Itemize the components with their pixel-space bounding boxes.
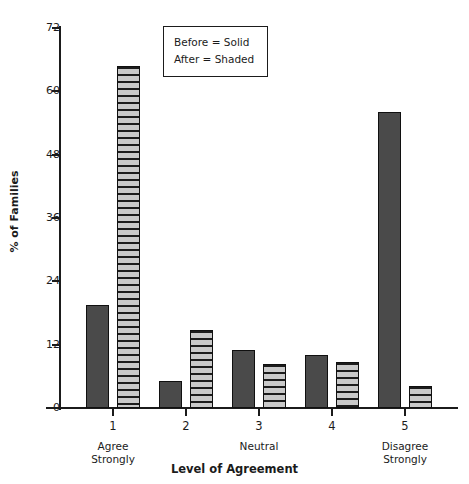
y-axis-tick-label: 60 [34, 85, 60, 96]
y-axis-tick-label: 48 [34, 149, 60, 160]
x-axis-category-caption: Neutral [211, 440, 307, 453]
x-axis-tick [258, 409, 260, 416]
x-axis-tick-label: 3 [239, 419, 279, 433]
chart-legend: Before = Solid After = Shaded [163, 26, 268, 77]
x-axis-title: Level of Agreement [0, 462, 469, 476]
x-axis-tick-label: 5 [385, 419, 425, 433]
y-axis-tick-label: 12 [34, 339, 60, 350]
bar-after-cat-2 [190, 330, 213, 408]
y-axis-tick-label: 36 [34, 212, 60, 223]
bar-after-cat-4 [336, 362, 359, 408]
x-axis-tick-label: 4 [312, 419, 352, 433]
y-axis-tick-label: 24 [34, 275, 60, 286]
bar-before-cat-2 [159, 381, 182, 408]
bar-before-cat-1 [86, 305, 109, 408]
x-axis-tick-label: 1 [93, 419, 133, 433]
y-axis-tick-label-wrap: 12 [0, 339, 60, 351]
bar-before-cat-5 [378, 112, 401, 408]
x-axis-tick [185, 409, 187, 416]
legend-entry-after: After = Shaded [174, 51, 257, 68]
y-axis-tick-label-wrap: 0 [0, 402, 60, 414]
y-axis-tick-label: 72 [34, 22, 60, 33]
bar-before-cat-4 [305, 355, 328, 408]
bar-after-cat-1 [117, 66, 140, 408]
bar-before-cat-3 [232, 350, 255, 408]
x-axis-tick-label: 2 [166, 419, 206, 433]
x-axis-tick [331, 409, 333, 416]
bar-after-cat-5 [409, 386, 432, 408]
x-axis-tick [112, 409, 114, 416]
y-axis-tick-label-wrap: 60 [0, 85, 60, 97]
y-axis-tick-label: 0 [34, 402, 60, 413]
y-axis-title: % of Families [8, 132, 21, 292]
bar-after-cat-3 [263, 364, 286, 408]
y-axis-tick-label-wrap: 72 [0, 22, 60, 34]
x-axis-tick [404, 409, 406, 416]
legend-entry-before: Before = Solid [174, 34, 257, 51]
bar-chart: Before = Solid After = Shaded 0122436486… [0, 0, 469, 484]
